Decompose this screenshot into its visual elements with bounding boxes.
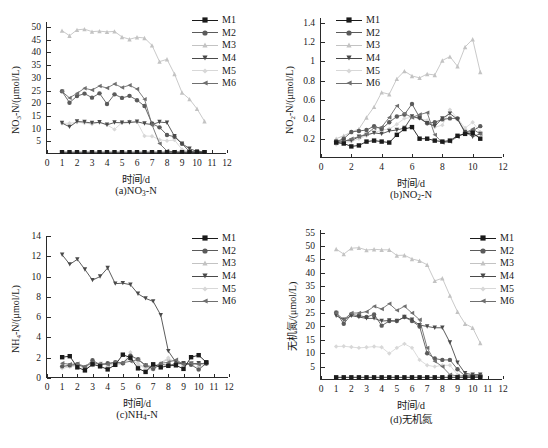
data-point-M1 [417, 375, 421, 379]
x-tick-label-a: 5 [120, 158, 125, 168]
data-point-M5 [165, 139, 169, 143]
data-point-M1 [357, 143, 361, 147]
legend-item-M2[interactable]: M2 [192, 245, 236, 258]
legend-label: M1 [222, 15, 236, 25]
legend-item-M1[interactable]: M1 [470, 232, 514, 245]
x-tick-label-d: 6 [410, 384, 415, 394]
data-point-M3 [180, 90, 184, 94]
data-point-M1 [187, 150, 191, 154]
legend-item-M1[interactable]: M1 [192, 14, 236, 27]
legend-item-M3[interactable]: M3 [470, 257, 514, 270]
subplot-caption-c: (c)NH4-N [46, 409, 228, 422]
subplot-d: 5101520253035404550550123456789101112无机氮… [274, 224, 548, 448]
data-point-M1 [470, 131, 474, 135]
x-tick-label-d: 1 [334, 384, 339, 394]
data-point-M1 [417, 136, 421, 140]
x-tick-label-b: 10 [468, 162, 478, 172]
legend-item-M1[interactable]: M1 [192, 232, 236, 245]
data-point-M6 [97, 84, 101, 88]
data-point-M1 [195, 150, 199, 154]
legend-item-M2[interactable]: M2 [336, 27, 380, 40]
data-point-M2 [105, 102, 109, 106]
x-tick-label-a: 11 [207, 158, 216, 168]
x-tick-label-c: 8 [166, 382, 171, 392]
legend-item-M5[interactable]: M5 [192, 64, 236, 77]
data-point-M1 [180, 150, 184, 154]
legend-item-M2[interactable]: M2 [192, 27, 236, 40]
subplot-c: 024681012140123456789101112NH4-N/(μmol/L… [0, 224, 274, 448]
legend-item-M5[interactable]: M5 [470, 282, 514, 295]
legend-item-M4[interactable]: M4 [470, 270, 514, 283]
legend-swatch-M1 [336, 15, 362, 25]
legend-item-M3[interactable]: M3 [192, 39, 236, 52]
data-point-M1 [75, 150, 79, 154]
x-tick-label-d: 3 [364, 384, 369, 394]
legend-item-M6[interactable]: M6 [336, 77, 380, 90]
legend-swatch-M6 [336, 78, 362, 88]
data-point-M1 [349, 144, 353, 148]
data-point-M4 [90, 278, 94, 282]
series-line-M2 [336, 313, 480, 376]
y-tick-label-b: 1.4 [303, 18, 315, 28]
y-tick-label-b: 0.4 [303, 114, 315, 124]
data-point-M4 [159, 313, 163, 317]
data-point-M6 [90, 88, 94, 92]
legend-c: M1M2M3M4M5M6 [192, 232, 236, 308]
y-tick-label-d: 45 [306, 254, 316, 264]
legend-item-M5[interactable]: M5 [192, 282, 236, 295]
legend-label: M2 [222, 246, 236, 256]
legend-item-M5[interactable]: M5 [336, 64, 380, 77]
data-point-M3 [372, 105, 376, 109]
data-point-M3 [440, 58, 444, 62]
legend-item-M6[interactable]: M6 [192, 295, 236, 308]
legend-label: M1 [222, 233, 236, 243]
data-point-M1 [478, 136, 482, 140]
data-point-M1 [181, 367, 185, 371]
data-point-M1 [379, 139, 383, 143]
legend-item-M4[interactable]: M4 [336, 52, 380, 65]
data-point-M6 [135, 87, 139, 91]
legend-item-M6[interactable]: M6 [192, 77, 236, 90]
legend-item-M2[interactable]: M2 [470, 245, 514, 258]
y-tick-label-c: 6 [36, 312, 41, 322]
x-tick-label-c: 2 [75, 382, 80, 392]
legend-swatch-M2 [470, 246, 496, 256]
legend-item-M3[interactable]: M3 [192, 257, 236, 270]
legend-swatch-M3 [336, 40, 362, 50]
data-point-M1 [189, 355, 193, 359]
legend-item-M4[interactable]: M4 [192, 270, 236, 283]
data-point-M6 [127, 83, 131, 87]
data-point-M1 [83, 368, 87, 372]
series-line-M3 [62, 29, 205, 121]
data-point-M2 [448, 358, 452, 362]
data-point-M4 [98, 274, 102, 278]
legend-label: M3 [222, 258, 236, 268]
data-point-M1 [128, 356, 132, 360]
x-axis-label-a: 时间/d [46, 171, 226, 186]
data-point-M2 [67, 101, 71, 105]
legend-label: M3 [366, 40, 380, 50]
legend-item-M4[interactable]: M4 [192, 52, 236, 65]
x-tick-label-d: 5 [394, 384, 399, 394]
data-point-M2 [349, 130, 353, 134]
x-tick-label-a: 12 [222, 158, 232, 168]
data-point-M2 [387, 120, 391, 124]
legend-item-M3[interactable]: M3 [336, 39, 380, 52]
y-tick-label-c: 8 [36, 292, 41, 302]
legend-label: M4 [500, 271, 514, 281]
x-axis-label-c: 时间/d [46, 395, 228, 410]
legend-item-M1[interactable]: M1 [336, 14, 380, 27]
x-axis-label-d: 时间/d [320, 397, 502, 412]
y-tick-label-a: 15 [32, 111, 42, 121]
data-point-M3 [202, 119, 206, 123]
legend-item-M6[interactable]: M6 [470, 295, 514, 308]
data-point-M3 [478, 70, 482, 74]
x-tick-label-b: 0 [319, 162, 324, 172]
data-point-M4 [67, 125, 71, 129]
y-tick-label-a: 40 [32, 47, 42, 57]
data-point-M3 [448, 54, 452, 58]
data-point-M2 [97, 91, 101, 95]
data-point-M3 [433, 279, 437, 283]
data-point-M1 [402, 375, 406, 379]
legend-b: M1M2M3M4M5M6 [336, 14, 380, 90]
